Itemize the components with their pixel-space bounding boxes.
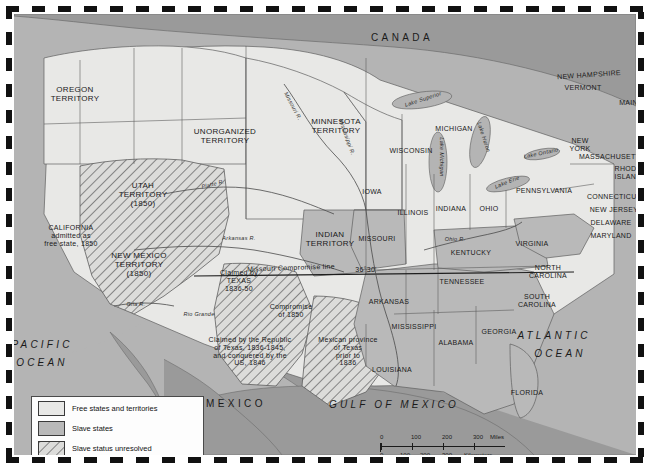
legend-item-unresolved: Slave status unresolved [38, 439, 203, 455]
map-geometry [14, 14, 636, 455]
legend-label-unresolved: Slave status unresolved [72, 444, 152, 453]
legend-label-slave: Slave states [72, 424, 113, 433]
scale-mile-tick-1: 100 [411, 434, 421, 440]
scale-miles-numbers: 0 100 200 300 Miles [380, 434, 505, 443]
oregon-territory-shape [44, 46, 246, 164]
scale-mile-tick-0: 0 [380, 434, 383, 440]
scale-km-tick-1: 100 [400, 452, 410, 455]
legend-item-slave: Slave states [38, 419, 203, 437]
legend-swatch-slave [38, 421, 65, 436]
legend-label-free: Free states and territories [72, 404, 157, 413]
historical-map: CANADAMEXICOPACIFICOCEANATLANTICOCEANGUL… [0, 0, 650, 469]
legend-item-free: Free states and territories [38, 399, 203, 417]
map-scale-bar: 0 100 200 300 Miles 0 100 200 300 Kilome… [380, 434, 505, 455]
map-canvas: CANADAMEXICOPACIFICOCEANATLANTICOCEANGUL… [14, 14, 636, 455]
legend-swatch-free [38, 401, 65, 416]
scale-ruler [380, 443, 505, 452]
missouri-slave-state [350, 210, 406, 270]
map-legend: Free states and territories Slave states… [31, 396, 204, 455]
scale-km-tick-0: 0 [380, 452, 383, 455]
scale-miles-unit: Miles [490, 434, 504, 440]
legend-swatch-unresolved [38, 441, 65, 456]
scale-mile-tick-3: 300 [473, 434, 483, 440]
scale-km-tick-3: 300 [442, 452, 452, 455]
scale-km-unit: Kilometers [464, 452, 492, 455]
lake-michigan-shape [429, 132, 447, 192]
scale-mile-tick-2: 200 [442, 434, 452, 440]
scale-km-tick-2: 200 [420, 452, 430, 455]
scale-km-numbers: 0 100 200 300 Kilometers [380, 452, 505, 455]
